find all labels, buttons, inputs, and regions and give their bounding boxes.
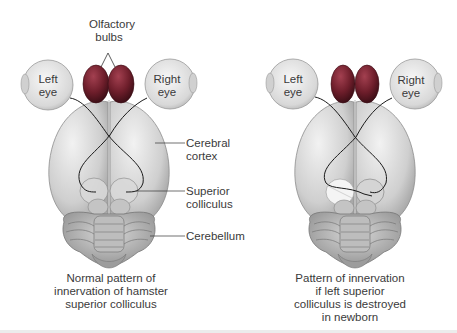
left-eye-label: Left eye xyxy=(273,73,313,99)
caption-line1: Pattern of innervation xyxy=(280,272,420,285)
caption-line4: in newborn xyxy=(280,311,420,324)
olfactory-bulbs xyxy=(331,65,379,103)
cerebral-hemispheres xyxy=(295,100,415,222)
left-eye-line2: eye xyxy=(273,86,313,99)
lesion-pattern-caption: Pattern of innervation if left superior … xyxy=(280,272,420,324)
right-eye-label: Right eye xyxy=(147,73,187,99)
normal-pattern-caption: Normal pattern of innervation of hamster… xyxy=(44,272,178,311)
caption-line3: superior colliculus xyxy=(44,298,178,311)
normal-innervation-panel: Olfactory bulbs Left eye Right eye Cereb… xyxy=(0,0,230,333)
right-eye-line1: Right xyxy=(147,73,187,86)
right-eye-line2: eye xyxy=(391,87,431,100)
left-eye-line2: eye xyxy=(28,86,68,99)
caption-line2: if left superior xyxy=(280,285,420,298)
right-eye-label: Right eye xyxy=(391,74,431,100)
cortex-label-line1: Cerebral xyxy=(186,137,230,150)
left-eye-label: Left eye xyxy=(28,73,68,99)
colliculus-label-line1: Superior xyxy=(186,185,233,198)
olfactory-label-line2: bulbs xyxy=(89,31,129,44)
lesion-innervation-panel: Left eye Right eye Pattern of innervatio… xyxy=(230,0,457,333)
caption-line3: colliculus is destroyed xyxy=(280,298,420,311)
colliculus-label-line2: colliculus xyxy=(186,198,233,211)
superior-colliculus-label: Superior colliculus xyxy=(186,185,233,211)
left-eye-line1: Left xyxy=(28,73,68,86)
olfactory-bulbs xyxy=(83,65,134,103)
left-eye-line1: Left xyxy=(273,73,313,86)
caption-line2: innervation of hamster xyxy=(44,285,178,298)
right-eye-line1: Right xyxy=(391,74,431,87)
olfactory-bulbs-label: Olfactory bulbs xyxy=(89,18,129,44)
cerebral-hemispheres xyxy=(49,100,169,222)
olfactory-label-line1: Olfactory xyxy=(89,18,129,31)
right-eye-line2: eye xyxy=(147,86,187,99)
olfactory-pointer xyxy=(100,53,116,69)
caption-line1: Normal pattern of xyxy=(44,272,178,285)
cerebellum xyxy=(309,212,401,268)
cortex-label-line2: cortex xyxy=(186,150,230,163)
cerebellum xyxy=(63,212,155,268)
cerebral-cortex-label: Cerebral cortex xyxy=(186,137,230,163)
